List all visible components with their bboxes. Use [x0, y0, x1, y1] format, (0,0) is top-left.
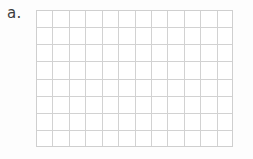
grid-background	[36, 10, 233, 147]
blank-answer-grid[interactable]	[36, 10, 233, 147]
worksheet-panel: a.	[0, 0, 253, 159]
grid-svg	[36, 10, 233, 147]
problem-label: a.	[7, 5, 22, 22]
